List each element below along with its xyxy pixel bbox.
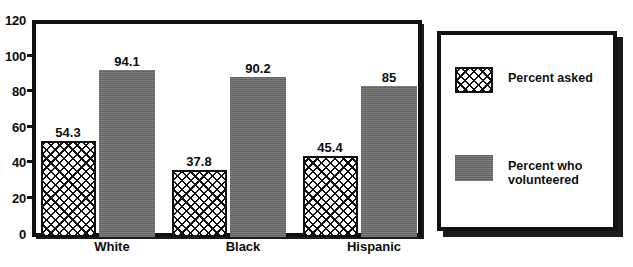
y-tick-label-120: 120	[5, 14, 26, 27]
y-tick-label-80: 80	[12, 85, 26, 98]
bar-label-hispanic-percent-asked: 45.4	[298, 141, 362, 154]
bar-chart-figure: 120 100 80 60 40 20 0 54.3 94.1 37.8 90.…	[0, 0, 633, 267]
bar-hispanic-percent-volunteered	[361, 86, 417, 237]
bar-white-percent-volunteered	[99, 70, 155, 237]
solid-gray-swatch-icon	[455, 155, 493, 181]
bar-black-percent-asked	[172, 170, 227, 237]
bar-label-hispanic-percent-volunteered: 85	[357, 71, 421, 84]
bar-label-white-percent-asked: 54.3	[36, 126, 100, 139]
y-tick-label-0: 0	[19, 228, 26, 241]
legend-box: Percent asked Percent who volunteered	[437, 31, 617, 231]
y-tick-label-20: 20	[12, 192, 26, 205]
bar-black-percent-volunteered	[230, 77, 286, 237]
legend-item-percent-volunteered: Percent who volunteered	[455, 155, 582, 187]
x-axis-labels: White Black Hispanic	[32, 240, 422, 260]
y-tick-label-100: 100	[5, 50, 26, 63]
plot-area: 54.3 94.1 37.8 90.2 45.4 85	[36, 24, 418, 237]
y-tick-label-40: 40	[12, 156, 26, 169]
bar-label-white-percent-volunteered: 94.1	[95, 55, 159, 68]
y-axis: 120 100 80 60 40 20 0	[0, 0, 32, 267]
bar-label-black-percent-volunteered: 90.2	[226, 62, 290, 75]
x-label-black: Black	[193, 240, 293, 253]
y-tick-label-60: 60	[12, 121, 26, 134]
cross-hatch-swatch-icon	[455, 67, 493, 93]
x-label-hispanic: Hispanic	[324, 240, 424, 253]
legend-label-percent-volunteered: Percent who volunteered	[508, 155, 582, 187]
x-label-white: White	[62, 240, 162, 253]
legend-label-percent-asked: Percent asked	[508, 67, 593, 85]
legend-item-percent-asked: Percent asked	[455, 67, 593, 93]
bar-white-percent-asked	[41, 141, 96, 237]
bar-hispanic-percent-asked	[303, 156, 358, 237]
bar-label-black-percent-asked: 37.8	[167, 155, 231, 168]
